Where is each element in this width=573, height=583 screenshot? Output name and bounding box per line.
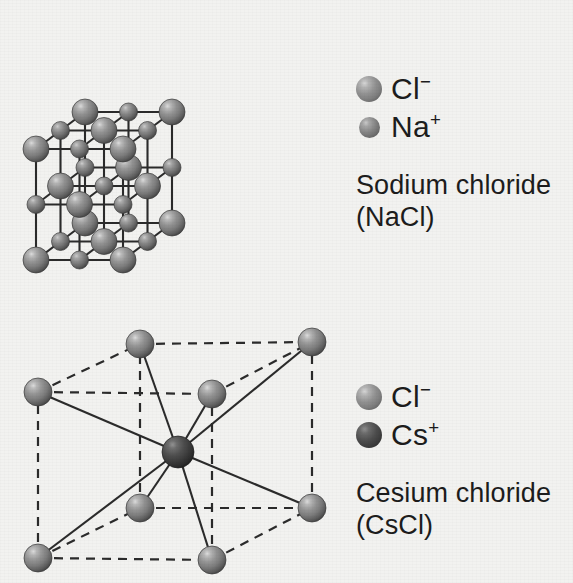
chloride-ion-sphere bbox=[298, 494, 326, 522]
chloride-ion-sphere bbox=[24, 544, 52, 572]
cesium-ion-swatch-icon bbox=[356, 422, 382, 448]
legend-row-sodium: Na+ bbox=[356, 108, 573, 146]
chloride-ion-swatch-icon bbox=[356, 76, 382, 102]
cesium-chloride-caption: Cesium chloride (CsCl) bbox=[356, 478, 573, 542]
unit-cell-edge bbox=[212, 508, 312, 560]
coordination-bond bbox=[38, 392, 178, 452]
cesium-ion-sphere bbox=[162, 436, 194, 468]
unit-cell-edge bbox=[38, 508, 140, 558]
legend-row-cesium: Cs+ bbox=[356, 416, 573, 454]
sodium-ion-sphere bbox=[120, 103, 138, 121]
chloride-ion-sphere bbox=[126, 330, 154, 358]
chloride-ion-sphere bbox=[91, 229, 117, 255]
sodium-ion-sphere bbox=[76, 159, 94, 177]
chloride-ion-sphere bbox=[23, 247, 49, 273]
cesium-chloride-name: Cesium chloride bbox=[356, 478, 551, 508]
sodium-ion-sphere bbox=[27, 196, 45, 214]
sodium-ion-sphere bbox=[71, 140, 89, 158]
cesium-chloride-formula: (CsCl) bbox=[356, 510, 573, 542]
cesium-chloride-lattice-diagram bbox=[0, 320, 340, 583]
cscl-lattice-svg bbox=[0, 320, 340, 583]
unit-cell-edge bbox=[38, 344, 140, 392]
chloride-charge-superscript-cscl: − bbox=[420, 379, 431, 400]
sodium-ion-label: Na+ bbox=[391, 112, 441, 142]
legend-row-chloride: Cl− bbox=[356, 70, 573, 108]
sodium-charge-superscript: + bbox=[430, 109, 441, 130]
chloride-ion-sphere bbox=[159, 210, 185, 236]
coordination-bond bbox=[140, 344, 178, 452]
sodium-ion-sphere bbox=[120, 214, 138, 232]
chloride-ion-sphere bbox=[159, 99, 185, 125]
chloride-ion-sphere bbox=[24, 378, 52, 406]
crystal-structures-figure: Cl− Na+ Sodium chloride (NaCl) Cl− Cs+ C… bbox=[0, 0, 573, 583]
sodium-ion-sphere bbox=[114, 196, 132, 214]
cesium-ion-label: Cs+ bbox=[391, 420, 439, 450]
cscl-cesium-sphere bbox=[162, 436, 194, 468]
chloride-ion-sphere bbox=[198, 380, 226, 408]
chloride-ion-sphere bbox=[110, 136, 136, 162]
sodium-ion-sphere bbox=[52, 122, 70, 140]
sodium-ion-sphere bbox=[95, 177, 113, 195]
chloride-ion-sphere bbox=[135, 173, 161, 199]
nacl-lattice-svg bbox=[0, 0, 340, 300]
chloride-ion-sphere bbox=[110, 247, 136, 273]
chloride-ion-sphere bbox=[48, 173, 74, 199]
sodium-ion-sphere bbox=[71, 251, 89, 269]
chloride-ion-sphere bbox=[67, 192, 93, 218]
nacl-ion-spheres bbox=[23, 99, 185, 273]
chloride-charge-superscript: − bbox=[420, 71, 431, 92]
chloride-ion-label: Cl− bbox=[391, 74, 431, 104]
legend-row-chloride-cscl: Cl− bbox=[356, 378, 573, 416]
cesium-charge-superscript: + bbox=[428, 417, 439, 438]
unit-cell-edge bbox=[38, 558, 212, 560]
sodium-ion-sphere bbox=[52, 233, 70, 251]
chloride-ion-label-cscl: Cl− bbox=[391, 382, 431, 412]
sodium-ion-sphere bbox=[163, 159, 181, 177]
sodium-chloride-formula: (NaCl) bbox=[356, 202, 573, 234]
sodium-chloride-caption: Sodium chloride (NaCl) bbox=[356, 170, 573, 234]
chloride-ion-sphere bbox=[198, 546, 226, 574]
coordination-bond bbox=[178, 452, 212, 560]
sodium-ion-swatch-icon bbox=[359, 117, 380, 138]
chloride-ion-sphere bbox=[126, 494, 154, 522]
chloride-ion-swatch-icon-cscl bbox=[356, 384, 382, 410]
sodium-chloride-name: Sodium chloride bbox=[356, 170, 551, 200]
chloride-ion-sphere bbox=[23, 136, 49, 162]
coordination-bond bbox=[38, 452, 178, 558]
sodium-chloride-legend: Cl− Na+ Sodium chloride (NaCl) bbox=[356, 70, 573, 234]
unit-cell-edge bbox=[38, 392, 212, 394]
coordination-bond bbox=[178, 452, 312, 508]
sodium-ion-sphere bbox=[139, 122, 157, 140]
chloride-ion-sphere bbox=[91, 118, 117, 144]
unit-cell-edge bbox=[212, 342, 312, 394]
unit-cell-edge bbox=[140, 342, 312, 344]
sodium-chloride-lattice-diagram bbox=[0, 0, 340, 300]
sodium-ion-sphere bbox=[139, 233, 157, 251]
chloride-ion-sphere bbox=[298, 328, 326, 356]
cesium-chloride-legend: Cl− Cs+ Cesium chloride (CsCl) bbox=[356, 378, 573, 542]
chloride-ion-sphere bbox=[72, 99, 98, 125]
